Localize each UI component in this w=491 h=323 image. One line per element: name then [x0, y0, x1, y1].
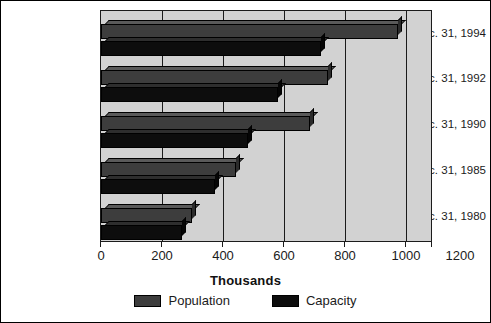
x-tick-label: 400: [212, 248, 234, 263]
bar-side-shade: [321, 33, 325, 52]
bar-face: [101, 87, 278, 102]
bar-face: [101, 179, 215, 194]
bar-top-shade: [105, 112, 318, 116]
bar-group: [101, 116, 431, 148]
bar-top-shade: [105, 37, 329, 41]
bar-top-shade: [105, 20, 406, 24]
bar-top-shade: [105, 221, 190, 225]
x-tick-label: 1000: [392, 248, 421, 263]
bar-side-shade: [215, 171, 219, 190]
bar-face: [101, 225, 182, 240]
legend-label: Population: [168, 293, 229, 308]
bar-side-shade: [236, 154, 240, 173]
x-tick-label: 0: [97, 248, 104, 263]
legend-swatch-population: [134, 295, 161, 307]
bar-capacity: [101, 133, 248, 148]
tick-mark: [283, 242, 284, 247]
bar-side-shade: [398, 16, 402, 35]
bar-group: [101, 24, 431, 56]
bar-capacity: [101, 87, 278, 102]
x-tick-label: 800: [334, 248, 356, 263]
tick-mark: [161, 242, 162, 247]
plot-area: [100, 10, 432, 242]
bar-top-shade: [105, 83, 286, 87]
bar-side-shade: [248, 125, 252, 144]
bar-capacity: [101, 41, 321, 56]
bar-top-shade: [105, 204, 200, 208]
chart-legend: Population Capacity: [1, 293, 490, 308]
x-tick-label: 600: [273, 248, 295, 263]
bar-capacity: [101, 179, 215, 194]
bar-side-shade: [310, 108, 314, 127]
tick-mark: [405, 242, 406, 247]
tick-mark: [344, 242, 345, 247]
bar-top-shade: [105, 129, 256, 133]
bar-face: [101, 41, 321, 56]
legend-label: Capacity: [306, 293, 357, 308]
legend-item-population: Population: [134, 293, 229, 308]
x-tick-label: 200: [151, 248, 173, 263]
bar-top-shade: [105, 175, 223, 179]
bar-top-shade: [105, 158, 244, 162]
bar-top-shade: [105, 66, 336, 70]
tick-mark: [222, 242, 223, 247]
legend-item-capacity: Capacity: [272, 293, 357, 308]
bar-side-shade: [192, 200, 196, 219]
x-tick-label: 1200: [446, 248, 475, 263]
bar-side-shade: [328, 62, 332, 81]
bar-capacity: [101, 225, 182, 240]
tick-mark: [100, 242, 101, 247]
bar-group: [101, 208, 431, 240]
bar-chart: Dec. 31, 1994 Dec. 31, 1992 Dec. 31, 199…: [0, 0, 491, 323]
bar-face: [101, 133, 248, 148]
tick-mark: [431, 242, 432, 247]
bar-side-shade: [182, 217, 186, 236]
bar-group: [101, 162, 431, 194]
bar-group: [101, 70, 431, 102]
legend-swatch-capacity: [272, 295, 299, 307]
x-axis-title: Thousands: [1, 273, 490, 288]
bar-side-shade: [278, 79, 282, 98]
